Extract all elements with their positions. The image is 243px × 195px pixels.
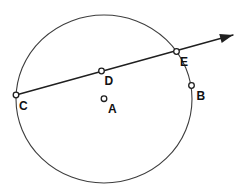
diagram-background bbox=[0, 0, 243, 195]
point-marker-a bbox=[101, 96, 107, 102]
point-label-d: D bbox=[105, 74, 114, 88]
point-label-a: A bbox=[108, 102, 117, 116]
point-marker-d bbox=[99, 68, 105, 74]
point-label-b: B bbox=[197, 89, 206, 103]
point-marker-b bbox=[189, 83, 195, 89]
geometry-diagram: C D A E B bbox=[0, 0, 243, 195]
point-marker-c bbox=[13, 92, 19, 98]
point-label-e: E bbox=[180, 55, 188, 69]
point-label-c: C bbox=[19, 99, 28, 113]
point-marker-e bbox=[174, 49, 180, 55]
diagram-canvas: C D A E B bbox=[0, 0, 243, 195]
